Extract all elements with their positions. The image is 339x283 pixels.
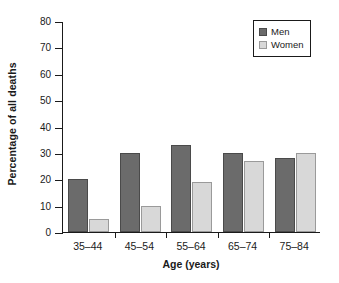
- y-axis-tick: 50: [55, 101, 63, 102]
- y-axis-tick: 40: [55, 128, 63, 129]
- y-axis-tick: 20: [55, 180, 63, 181]
- x-axis-tick-label: 45–54: [114, 240, 166, 252]
- y-axis-tick: 70: [55, 48, 63, 49]
- bar-women-4: [296, 153, 316, 232]
- chart-legend: Men Women: [253, 20, 311, 57]
- y-axis-tick-label: 40: [40, 122, 51, 133]
- y-axis-tick: 10: [55, 207, 63, 208]
- legend-swatch-women-icon: [259, 41, 267, 49]
- bar-women-1: [141, 206, 161, 232]
- y-axis-tick: 30: [55, 154, 63, 155]
- y-axis-tick: 80: [55, 22, 63, 23]
- x-axis-tick: [269, 232, 270, 238]
- x-axis-title: Age (years): [62, 258, 320, 270]
- bar-group: [63, 22, 115, 232]
- x-axis-tick: [115, 232, 116, 238]
- bar-group: [166, 22, 218, 232]
- bar-women-2: [192, 182, 212, 232]
- x-axis-tick-label: 75–84: [268, 240, 320, 252]
- bar-chart-figure: Percentage of all deaths 010203040506070…: [0, 0, 339, 283]
- legend-label-women: Women: [271, 40, 304, 50]
- legend-swatch-men-icon: [259, 28, 267, 36]
- bar-men-0: [68, 179, 88, 232]
- bar-group: [115, 22, 167, 232]
- legend-item-men: Men: [259, 26, 304, 38]
- y-axis-tick-label: 0: [45, 227, 51, 238]
- bar-women-0: [89, 219, 109, 232]
- y-axis-tick-label: 30: [40, 148, 51, 159]
- y-axis-tick-label: 10: [40, 201, 51, 212]
- x-axis-tick-label: 35–44: [62, 240, 114, 252]
- y-axis-tick-label: 80: [40, 16, 51, 27]
- legend-label-men: Men: [271, 27, 289, 37]
- x-axis-tick: [166, 232, 167, 238]
- y-axis-tick-label: 20: [40, 174, 51, 185]
- bar-men-3: [223, 153, 243, 232]
- bar-men-4: [275, 158, 295, 232]
- bar-women-3: [244, 161, 264, 232]
- bar-men-2: [171, 145, 191, 232]
- x-axis-tick-labels: 35–4445–5455–6465–7475–84: [62, 240, 320, 254]
- x-axis-tick: [218, 232, 219, 238]
- y-axis-tick-label: 50: [40, 95, 51, 106]
- y-axis-tick: 0: [55, 233, 63, 234]
- y-axis-tick-label: 60: [40, 69, 51, 80]
- legend-item-women: Women: [259, 39, 304, 51]
- x-axis-tick-label: 65–74: [217, 240, 269, 252]
- y-axis-tick: 60: [55, 75, 63, 76]
- x-axis-tick-label: 55–64: [165, 240, 217, 252]
- y-axis-tick-label: 70: [40, 42, 51, 53]
- bar-men-1: [120, 153, 140, 232]
- y-axis-title: Percentage of all deaths: [6, 24, 18, 224]
